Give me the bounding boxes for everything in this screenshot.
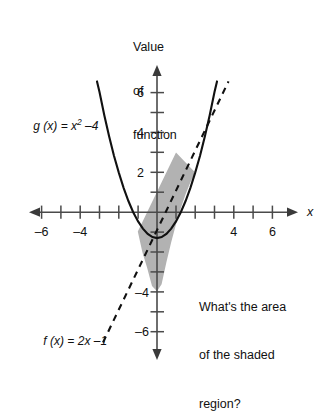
x-tick-label-6: 6 xyxy=(269,225,276,239)
series-label-g-tail: –4 xyxy=(82,119,99,133)
x-axis-arrow-right xyxy=(287,208,298,217)
y-axis-arrow-down xyxy=(152,349,161,360)
x-axis-arrow-left xyxy=(29,208,40,217)
question-line-3: region? xyxy=(199,396,286,412)
series-label-g-arg: (x) = xyxy=(40,119,71,133)
series-label-f-arg: (x) = 2 xyxy=(47,334,85,348)
y-tick-label--6: –6 xyxy=(135,325,149,339)
y-axis-title: Value of function xyxy=(133,10,177,172)
y-axis-title-line-3: function xyxy=(133,128,177,143)
question-annotation: What's the area of the shaded region? xyxy=(199,266,286,415)
series-label-f: f (x) = 2x –1 xyxy=(30,320,107,362)
x-axis-label: x xyxy=(307,205,313,219)
x-tick-label-4: 4 xyxy=(230,225,237,239)
x-tick-label--4: –4 xyxy=(73,225,87,239)
question-line-2: of the shaded xyxy=(199,347,286,363)
y-axis-title-line-2: of xyxy=(133,84,177,99)
series-label-g: g (x) = x2 –4 xyxy=(20,103,98,147)
x-tick-label--6: –6 xyxy=(35,225,49,239)
question-line-1: What's the area xyxy=(199,299,286,315)
series-label-f-tail: –1 xyxy=(90,334,107,348)
shaded-region xyxy=(138,153,195,292)
y-tick-label--4: –4 xyxy=(135,286,149,300)
y-axis-title-line-1: Value xyxy=(133,40,177,55)
